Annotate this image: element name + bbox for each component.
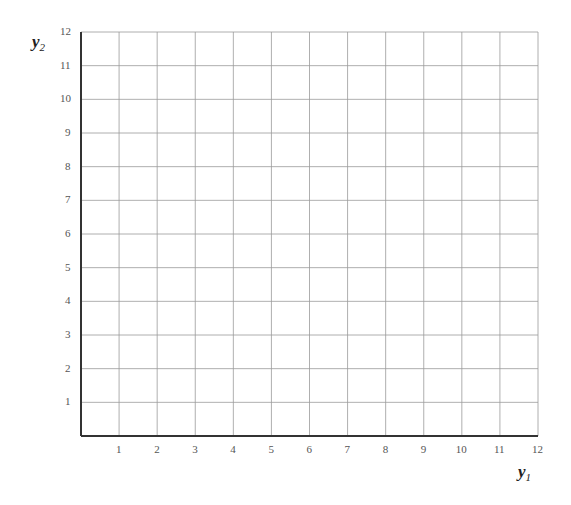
y-tick-label: 1 <box>65 395 71 407</box>
y-tick-label: 8 <box>65 160 71 172</box>
y-tick-label: 2 <box>65 362 71 374</box>
x-tick-label: 5 <box>268 443 274 455</box>
y-tick-label: 4 <box>65 294 71 306</box>
y-tick-label: 10 <box>60 92 71 104</box>
x-tick-label: 6 <box>307 443 313 455</box>
x-tick-label: 2 <box>154 443 160 455</box>
x-axis-label-main: y <box>518 462 526 481</box>
y-tick-label: 7 <box>65 193 71 205</box>
x-tick-label: 1 <box>116 443 122 455</box>
x-tick-label: 8 <box>383 443 389 455</box>
y-axis-label-main: y <box>32 32 40 51</box>
x-tick-label: 7 <box>345 443 351 455</box>
x-tick-label: 3 <box>192 443 198 455</box>
y-tick-label: 5 <box>65 261 71 273</box>
y-axis-label-sub: 2 <box>40 41 46 53</box>
x-tick-label: 4 <box>230 443 236 455</box>
x-tick-label: 10 <box>456 443 467 455</box>
y-tick-label: 6 <box>65 227 71 239</box>
x-tick-label: 11 <box>494 443 505 455</box>
x-axis-label-sub: 1 <box>526 471 532 483</box>
y-tick-label: 12 <box>60 25 71 37</box>
x-tick-label: 12 <box>532 443 543 455</box>
y-tick-label: 9 <box>65 126 71 138</box>
y-tick-label: 11 <box>60 59 71 71</box>
x-tick-label: 9 <box>421 443 427 455</box>
x-axis-label: y1 <box>518 462 531 483</box>
grid-chart <box>0 0 571 505</box>
grid-lines <box>81 32 538 436</box>
y-axis-label: y2 <box>32 32 45 53</box>
y-tick-label: 3 <box>65 328 71 340</box>
